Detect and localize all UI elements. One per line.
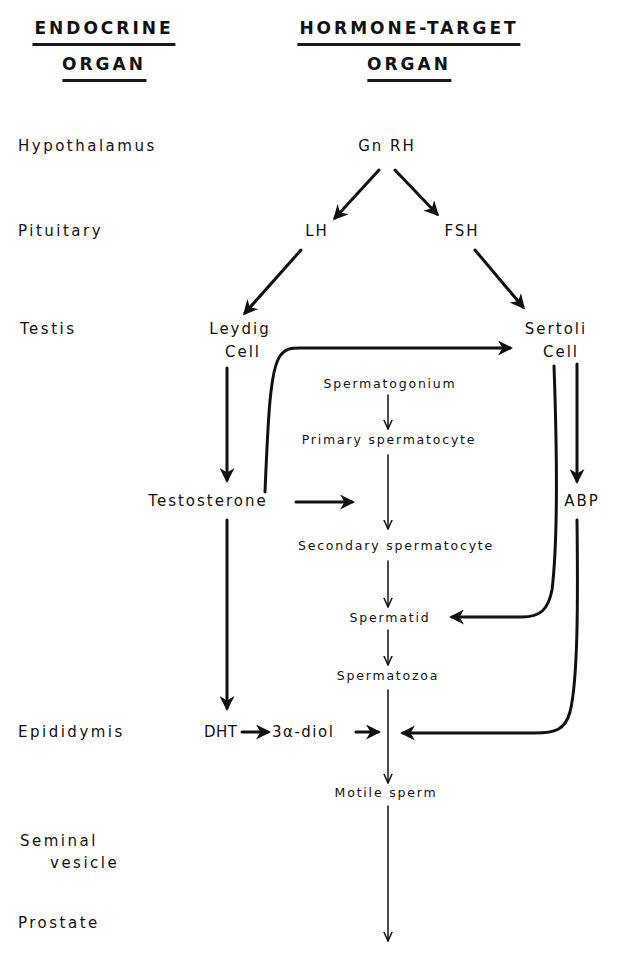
node-motile-sperm: Motile sperm	[335, 787, 438, 800]
node-abp: ABP	[564, 494, 600, 509]
node-spermatid: Spermatid	[350, 612, 431, 625]
organ-prostate: Prostate	[18, 916, 100, 931]
node-testosterone: Testosterone	[148, 494, 267, 509]
header-endocrine-organ: ENDOCRINE ORGAN	[32, 20, 175, 82]
node-fsh: FSH	[444, 224, 479, 239]
node-primary-spermatocyte: Primary spermatocyte	[302, 434, 477, 447]
arrow-lh-leydig	[245, 250, 301, 313]
node-spermatozoa: Spermatozoa	[337, 670, 440, 683]
node-3a-diol: 3α-diol	[272, 725, 334, 740]
header-endocrine-line1: ENDOCRINE	[32, 20, 175, 46]
arrow-gnrh-fsh	[395, 170, 437, 214]
header-endocrine-line2: ORGAN	[62, 56, 146, 82]
node-sertoli-line2: Cell	[543, 345, 579, 360]
node-sertoli-line1: Sertoli	[525, 322, 587, 337]
header-target-line1: HORMONE-TARGET	[297, 20, 520, 46]
header-hormone-target-organ: HORMONE-TARGET ORGAN	[297, 20, 520, 82]
node-leydig-line2: Cell	[225, 345, 261, 360]
node-lh: LH	[305, 224, 329, 239]
arrow-gnrh-lh	[335, 170, 379, 218]
organ-hypothalamus: Hypothalamus	[18, 139, 157, 154]
organ-seminal-vesicle-line2: vesicle	[50, 856, 119, 871]
arrow-fsh-sertoli	[475, 250, 523, 307]
organ-testis: Testis	[20, 322, 77, 337]
organ-pituitary: Pituitary	[18, 224, 103, 239]
node-gnrh: Gn RH	[358, 139, 416, 154]
arrow-sertoli-spermatid	[452, 366, 556, 617]
node-leydig-line1: Leydig	[209, 322, 270, 337]
organ-seminal-vesicle-line1: Seminal	[20, 834, 98, 849]
node-secondary-spermatocyte: Secondary spermatocyte	[298, 540, 494, 553]
organ-epididymis: Epididymis	[18, 725, 125, 740]
header-target-line2: ORGAN	[367, 56, 451, 82]
node-spermatogonium: Spermatogonium	[323, 378, 456, 391]
node-dht: DHT	[204, 725, 238, 740]
diagram-canvas: ENDOCRINE ORGAN HORMONE-TARGET ORGAN Hyp…	[0, 0, 618, 956]
